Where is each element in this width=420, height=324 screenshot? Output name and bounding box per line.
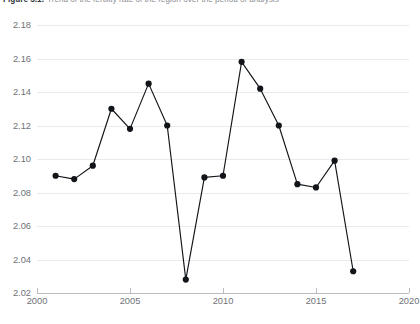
data-point — [164, 122, 170, 128]
data-point — [332, 158, 338, 164]
data-point — [108, 106, 114, 112]
data-point — [127, 126, 133, 132]
data-point — [239, 59, 245, 65]
data-point — [350, 268, 356, 274]
data-point — [53, 173, 59, 179]
data-point — [276, 122, 282, 128]
data-point — [313, 184, 319, 190]
data-point — [220, 173, 226, 179]
data-point — [257, 86, 263, 92]
data-series-layer — [0, 0, 420, 324]
figure-container: Figure 5.1.Trend of the fertility rate o… — [0, 0, 420, 324]
data-point — [294, 181, 300, 187]
data-point — [146, 81, 152, 87]
data-point — [90, 163, 96, 169]
data-point — [71, 176, 77, 182]
series-line — [56, 62, 354, 280]
data-point — [201, 174, 207, 180]
data-point — [183, 277, 189, 283]
